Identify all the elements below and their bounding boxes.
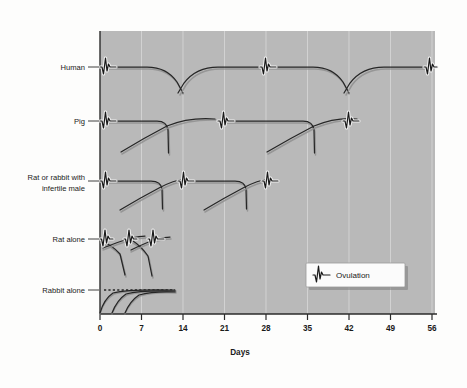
row-label-rat-or-rabbit-line1: Rat or rabbit with (28, 173, 85, 182)
x-tick-label: 21 (220, 324, 230, 333)
figure-container: 0 7 14 21 28 35 42 49 56 Days (0, 0, 467, 388)
row-label-rat-or-rabbit-line2: infertile male (42, 184, 85, 193)
x-tick-label: 0 (98, 324, 103, 333)
row-label-rat-alone: Rat alone (52, 235, 85, 244)
ovulation-cycle-chart: 0 7 14 21 28 35 42 49 56 Days (0, 0, 467, 388)
x-tick-label: 56 (427, 324, 437, 333)
x-tick-label: 14 (178, 324, 188, 333)
x-axis-title: Days (230, 348, 250, 357)
x-tick-label: 28 (261, 324, 271, 333)
legend-label-ovulation: Ovulation (336, 271, 370, 280)
row-label-pig: Pig (74, 117, 85, 126)
row-label-human: Human (61, 63, 85, 72)
row-label-rabbit-alone: Rabbit alone (42, 286, 85, 295)
x-tick-label: 42 (344, 324, 354, 333)
legend: Ovulation (306, 263, 408, 290)
x-tick-label: 7 (139, 324, 144, 333)
x-tick-label: 49 (386, 324, 396, 333)
x-tick-label: 35 (303, 324, 313, 333)
